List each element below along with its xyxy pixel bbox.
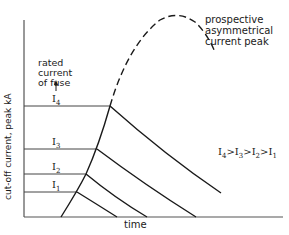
decay-curve-i4 [110,106,221,193]
x-axis-label: time [124,220,147,230]
y-axis-label: cut-off current, peak kA [3,93,13,200]
prospective-peak-label: prospective asymmetrical current peak [205,14,273,47]
decay-curve-i2 [86,174,147,217]
peak-line-1: prospective [205,14,273,25]
current-relation: I4>I3>I2>I1 [218,146,277,160]
label-i2: I2 [52,161,60,175]
label-i4: I4 [52,93,60,107]
peak-line-2: asymmetrical [205,25,273,36]
rated-current-label: rated current of fuse [38,58,72,88]
peak-line-3: current peak [205,36,273,47]
decay-curve-i3 [97,149,196,217]
prospective-peak-curve [110,15,215,106]
decay-curve-i1 [77,192,117,217]
label-i1: I1 [52,179,60,193]
rated-line-3: of fuse [38,78,72,88]
label-i3: I3 [52,136,60,150]
rising-current-curve [61,106,110,217]
